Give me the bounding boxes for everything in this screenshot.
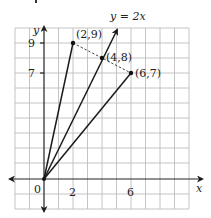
- top-mark: [35, 0, 37, 3]
- x-axis-label: x: [196, 182, 203, 195]
- point-2-9: [71, 41, 75, 45]
- point-4-8: [100, 56, 104, 60]
- grid: [15, 28, 189, 209]
- line-label: y = 2x: [109, 10, 146, 23]
- point-label-2-9: (2,9): [76, 28, 102, 41]
- point-label-4-8: (4,8): [106, 51, 132, 64]
- y-axis-label: y: [32, 24, 40, 37]
- y-tick-label-7: 7: [28, 67, 35, 80]
- point-label-6-7: (6,7): [135, 67, 161, 80]
- point-6-7: [129, 71, 133, 75]
- x-tick-label-0: 0: [34, 183, 41, 196]
- x-tick-label-2: 2: [69, 186, 76, 199]
- x-tick-label-6: 6: [127, 186, 134, 199]
- coordinate-diagram: (2,9) (4,8) (6,7) y = 2x y x 9 7 0 2 6: [0, 0, 211, 218]
- origin-point: [42, 177, 46, 181]
- y-tick-label-9: 9: [28, 37, 35, 50]
